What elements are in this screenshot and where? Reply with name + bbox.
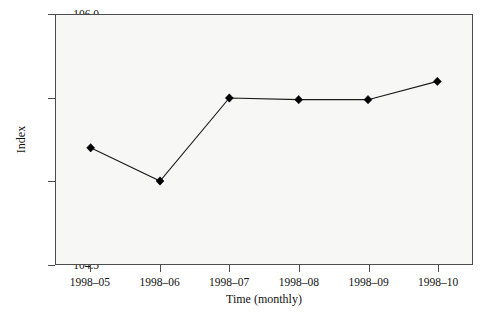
y-axis-title: Index: [14, 14, 29, 265]
data-point-marker: [87, 144, 95, 152]
series-line: [91, 81, 438, 181]
data-point-marker: [295, 95, 303, 103]
y-tick-mark: [48, 98, 55, 99]
y-tick-mark: [48, 265, 55, 266]
x-tick-mark: [229, 265, 230, 272]
chart-figure: Index 104.5105.0105.5106.0 1998–051998–0…: [0, 0, 496, 320]
series-markers: [87, 77, 442, 185]
x-tick-label: 1998–10: [393, 276, 483, 289]
data-point-marker: [433, 77, 441, 85]
x-tick-mark: [90, 265, 91, 272]
y-tick-mark: [48, 14, 55, 15]
x-tick-mark: [160, 265, 161, 272]
series-canvas: [56, 15, 472, 264]
x-tick-mark: [438, 265, 439, 272]
data-point-marker: [364, 95, 372, 103]
x-tick-mark: [369, 265, 370, 272]
plot-area: [55, 14, 473, 265]
x-tick-mark: [299, 265, 300, 272]
y-tick-mark: [48, 181, 55, 182]
x-axis-title: Time (monthly): [55, 292, 473, 307]
